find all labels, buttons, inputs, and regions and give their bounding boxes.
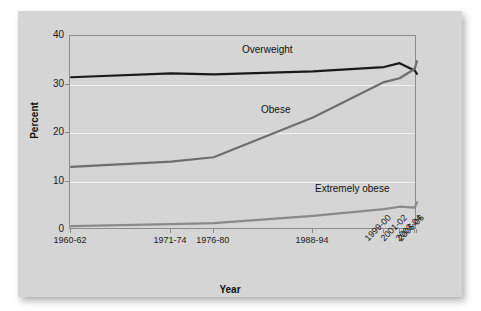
x-tick-label-1976-80: 1976-80 [196, 235, 229, 245]
y-tick-label-20: 20 [40, 127, 64, 137]
line-overweight [71, 63, 417, 77]
line-extremely-obese [71, 202, 417, 226]
line-obese [71, 61, 417, 167]
y-axis-tick-labels: 010203040 [38, 35, 64, 229]
chart-figure: 010203040 Percent 1960-621971-741976-801… [0, 0, 481, 311]
x-tick-mark-1971-74 [170, 229, 171, 233]
x-tick-mark-1976-80 [213, 229, 214, 233]
y-tick-label-30: 30 [40, 79, 64, 89]
x-tick-mark-1960-62 [70, 229, 71, 233]
y-tick-label-40: 40 [40, 30, 64, 40]
series-lines [70, 36, 417, 230]
series-label-obese: Obese [261, 104, 290, 115]
y-tick-label-0: 0 [40, 224, 64, 234]
x-tick-label-1960-62: 1960-62 [54, 235, 87, 245]
y-axis-title: Percent [29, 81, 40, 161]
y-tick-label-10: 10 [40, 176, 64, 186]
x-tick-label-1988-94: 1988-94 [295, 235, 328, 245]
x-axis-title: Year [190, 284, 270, 295]
x-tick-label-1971-74: 1971-74 [153, 235, 186, 245]
x-tick-mark-2005-06 [416, 229, 417, 233]
series-label-extremely-obese: Extremely obese [315, 183, 389, 194]
x-tick-mark-1988-94 [312, 229, 313, 233]
series-label-overweight: Overweight [242, 44, 293, 55]
plot-area [69, 35, 416, 229]
